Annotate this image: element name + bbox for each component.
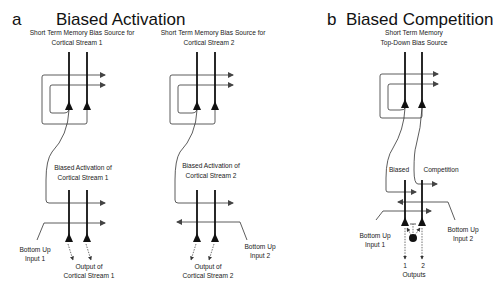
stream2-source-label-1: Short Term Memory Bias Source for bbox=[161, 29, 266, 37]
competition-source-label-2: Top-Down Bias Source bbox=[380, 39, 447, 47]
stream-2-diagram: Short Term Memory Bias Source for Cortic… bbox=[161, 29, 276, 279]
stream1-activation-label-1: Biased Activation of bbox=[54, 164, 112, 171]
competition-label-competition: Competition bbox=[423, 166, 459, 174]
panel-b-letter: b bbox=[327, 10, 336, 29]
outputs-label: Outputs bbox=[402, 271, 426, 279]
stream2-input-label-2: Input 2 bbox=[250, 252, 270, 260]
inhibitory-unit bbox=[409, 234, 417, 242]
panel-a-letter: a bbox=[12, 10, 22, 29]
competition-input2-label-2: Input 2 bbox=[453, 235, 473, 243]
output-1-label: 1 bbox=[403, 262, 407, 269]
stream2-output-label-2: Cortical Stream 2 bbox=[183, 272, 234, 279]
panel-b-title: Biased Competition bbox=[346, 10, 493, 29]
stream-1-diagram: Short Term Memory Bias Source for Cortic… bbox=[19, 29, 135, 279]
stream1-output-label-1: Output of bbox=[75, 263, 102, 271]
stream1-output-label-2: Cortical Stream 1 bbox=[64, 272, 115, 279]
stream1-input-label-2: Input 1 bbox=[25, 255, 45, 263]
stream1-input-label-1: Bottom Up bbox=[19, 246, 50, 254]
competition-input1-label-1: Bottom Up bbox=[359, 232, 390, 240]
stream2-input-label-1: Bottom Up bbox=[244, 243, 275, 251]
stream2-activation-label-2: Cortical Stream 2 bbox=[186, 172, 237, 179]
stream1-activation-label-2: Cortical Stream 1 bbox=[58, 174, 109, 181]
stream2-output-label-1: Output of bbox=[194, 263, 221, 271]
competition-input2-label-1: Bottom Up bbox=[447, 226, 478, 234]
stream2-source-label-2: Cortical Stream 2 bbox=[184, 39, 235, 46]
stream1-source-label-2: Cortical Stream 1 bbox=[52, 39, 103, 46]
stream1-source-label-1: Short Term Memory Bias Source for bbox=[30, 29, 135, 37]
competition-source-label-1: Short Term Memory bbox=[385, 29, 443, 37]
competition-input1-label-2: Input 1 bbox=[365, 241, 385, 249]
competition-label-biased: Biased bbox=[389, 166, 409, 173]
competition-diagram: Short Term Memory Top-Down Bias Source B… bbox=[359, 29, 478, 279]
output-2-label: 2 bbox=[421, 262, 425, 269]
diagram-canvas: a Biased Activation Short Term Memory Bi… bbox=[0, 0, 497, 293]
stream2-activation-label-1: Biased Activation of bbox=[182, 162, 240, 169]
panel-a-title: Biased Activation bbox=[56, 10, 185, 29]
